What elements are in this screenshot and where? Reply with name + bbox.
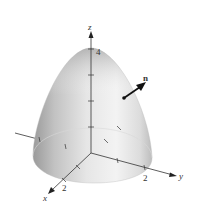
surface-top-shading <box>33 48 152 183</box>
figure-canvas: z 4 y 2 x 2 n <box>0 0 197 204</box>
z-axis-label: z <box>87 22 92 32</box>
paraboloid-figure: z 4 y 2 x 2 n <box>0 0 197 204</box>
y-tick-label-2: 2 <box>143 173 148 183</box>
x-axis-label: x <box>42 193 47 203</box>
z-tick-label-4: 4 <box>96 47 101 57</box>
y-axis-label: y <box>178 171 183 181</box>
z-axis-arrowhead <box>89 31 94 38</box>
y-axis-arrowhead <box>169 173 177 178</box>
x-tick-label-2: 2 <box>62 183 67 193</box>
normal-vector-label: n <box>143 73 148 83</box>
